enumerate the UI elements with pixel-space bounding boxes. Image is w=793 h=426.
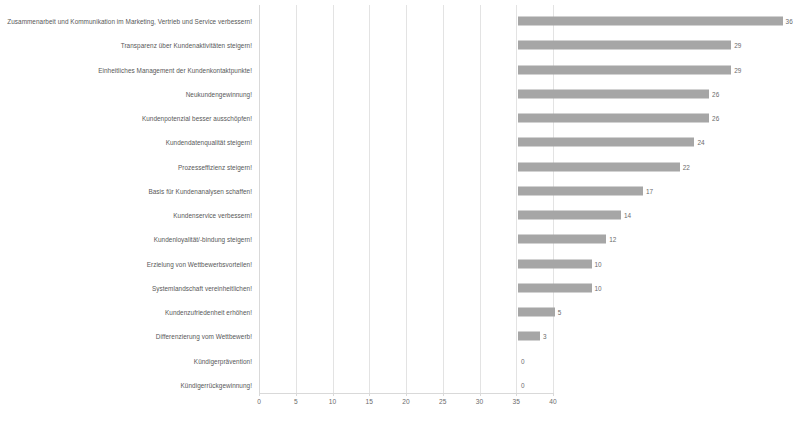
bar-value-label: 10 (592, 259, 602, 268)
bar-row: Kundenloyalität/-bindung steigern!12 (259, 227, 553, 251)
bar-value-label: 17 (643, 186, 653, 195)
bar (518, 114, 709, 123)
bar (518, 89, 709, 98)
bar-row: Transparenz über Kundenaktivitäten steig… (259, 33, 553, 57)
bar-group: 10 (518, 259, 602, 268)
category-label: Kundenloyalität/-bindung steigern! (154, 235, 256, 244)
bar (518, 41, 731, 50)
category-label: Transparenz über Kundenaktivitäten steig… (121, 41, 256, 50)
x-tick-mark-20 (406, 393, 407, 396)
bar-row: Erzielung von Wettbewerbsvorteilen!10 (259, 252, 553, 276)
category-label: Zusammenarbeit und Kommunikation im Mark… (7, 17, 256, 26)
bar-value-label: 10 (592, 283, 602, 292)
x-tick-mark-35 (516, 393, 517, 396)
bar-group: 24 (518, 138, 705, 147)
x-tick-label: 25 (439, 396, 446, 407)
x-tick-label: 35 (513, 396, 520, 407)
bar-group: 0 (518, 380, 525, 389)
bar-group: 0 (518, 356, 525, 365)
bar-row: Prozesseffizienz steigern!22 (259, 155, 553, 179)
bar-group: 12 (518, 235, 616, 244)
bar (518, 138, 694, 147)
bar-row: Kundenzufriedenheit erhöhen!5 (259, 300, 553, 324)
x-axis-tick-labels: 0510152025303540 (0, 396, 556, 410)
x-tick-label: 30 (476, 396, 483, 407)
bar-row: Differenzierung vom Wettbewerb!3 (259, 324, 553, 348)
bar (518, 186, 643, 195)
bar (518, 235, 606, 244)
x-tick-mark-15 (369, 393, 370, 396)
bar-value-label: 26 (709, 114, 719, 123)
bar-value-label: 0 (518, 380, 525, 389)
bar-row: Kundenpotenzial besser ausschöpfen!26 (259, 106, 553, 130)
x-tick-label: 0 (257, 396, 261, 407)
category-label: Kündigerprävention! (194, 356, 256, 365)
x-tick-mark-25 (443, 393, 444, 396)
bar-value-label: 24 (694, 138, 704, 147)
bar-row: Systemlandschaft vereinheitlichen!10 (259, 276, 553, 300)
bar-value-label: 5 (555, 308, 562, 317)
bar-value-label: 26 (709, 89, 719, 98)
bar-value-label: 22 (680, 162, 690, 171)
category-label: Neukundengewinnung! (186, 89, 256, 98)
bar-group: 14 (518, 211, 631, 220)
plot-area: Zusammenarbeit und Kommunikation im Mark… (259, 5, 553, 393)
x-tick-mark-40 (553, 393, 554, 396)
bar (518, 332, 540, 341)
bar-group: 22 (518, 162, 690, 171)
bar-group: 26 (518, 89, 719, 98)
x-tick-mark-5 (296, 393, 297, 396)
bar-value-label: 29 (731, 65, 741, 74)
bar-row: Basis für Kundenanalysen schaffen!17 (259, 179, 553, 203)
x-tick-mark-30 (480, 393, 481, 396)
category-label: Kundenzufriedenheit erhöhen! (165, 308, 256, 317)
category-label: Differenzierung vom Wettbewerb! (156, 332, 256, 341)
x-tick-label: 10 (329, 396, 336, 407)
category-label: Kundenservice verbessern! (173, 211, 256, 220)
category-label: Einheitliches Management der Kundenkonta… (98, 65, 256, 74)
bar (518, 283, 592, 292)
bar-row: Kundenservice verbessern!14 (259, 203, 553, 227)
x-tick-mark-0 (259, 393, 260, 396)
bar-row: Einheitliches Management der Kundenkonta… (259, 58, 553, 82)
category-label: Prozesseffizienz steigern! (178, 162, 256, 171)
bar (518, 65, 731, 74)
bar-row: Kundendatenqualität steigern!24 (259, 130, 553, 154)
bar-group: 26 (518, 114, 719, 123)
bar-group: 36 (518, 17, 793, 26)
bar (518, 17, 783, 26)
bar-row: Zusammenarbeit und Kommunikation im Mark… (259, 9, 553, 33)
bar-value-label: 29 (731, 41, 741, 50)
bar-group: 10 (518, 283, 602, 292)
category-label: Systemlandschaft vereinheitlichen! (152, 283, 256, 292)
bar (518, 162, 680, 171)
category-label: Kundenpotenzial besser ausschöpfen! (142, 114, 256, 123)
bar-value-label: 0 (518, 356, 525, 365)
bar-value-label: 14 (621, 211, 631, 220)
category-label: Basis für Kundenanalysen schaffen! (148, 186, 256, 195)
bar-value-label: 3 (540, 332, 547, 341)
bar-group: 5 (518, 308, 561, 317)
bar-group: 29 (518, 41, 741, 50)
category-label: Kündigerrückgewinnung! (181, 380, 256, 389)
bar-row: Neukundengewinnung!26 (259, 82, 553, 106)
x-tick-mark-10 (333, 393, 334, 396)
x-tick-label: 15 (366, 396, 373, 407)
x-tick-label: 5 (294, 396, 298, 407)
bar-row: Kündigerprävention!0 (259, 349, 553, 373)
bar-value-label: 36 (783, 17, 793, 26)
category-label: Kundendatenqualität steigern! (166, 138, 256, 147)
x-tick-label: 40 (549, 396, 556, 407)
bar-value-label: 12 (606, 235, 616, 244)
category-label: Erzielung von Wettbewerbsvorteilen! (147, 259, 256, 268)
bar (518, 259, 592, 268)
bar (518, 308, 555, 317)
bar-group: 17 (518, 186, 653, 195)
gridline-40 (553, 5, 554, 393)
bar (518, 211, 621, 220)
bar-group: 29 (518, 65, 741, 74)
bar-group: 3 (518, 332, 547, 341)
x-tick-label: 20 (402, 396, 409, 407)
